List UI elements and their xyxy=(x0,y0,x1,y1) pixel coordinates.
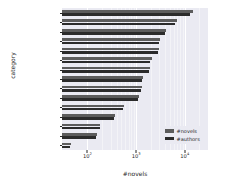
y-tick-mark xyxy=(60,51,63,52)
legend-swatch-authors xyxy=(165,137,174,140)
y-tick-mark xyxy=(60,88,63,89)
y-tick-mark xyxy=(60,79,63,80)
y-tick-mark xyxy=(60,117,63,118)
y-tick-mark xyxy=(60,98,63,99)
legend-label-novels: #novels xyxy=(177,128,197,134)
legend-label-authors: #authors xyxy=(177,136,200,142)
y-tick-mark xyxy=(60,70,63,71)
x-axis-label: #novels xyxy=(62,170,208,177)
x-tick-label: 102 xyxy=(83,152,92,159)
x-tick-label: 103 xyxy=(132,152,141,159)
bar-chart-figure: category #novels XuanhuanModernXianxiaSc… xyxy=(0,0,227,184)
x-tick-mark xyxy=(87,150,88,153)
y-tick-mark xyxy=(60,60,63,61)
y-tick-mark xyxy=(60,136,63,137)
y-tick-mark xyxy=(60,145,63,146)
y-tick-mark xyxy=(60,41,63,42)
y-tick-mark xyxy=(60,126,63,127)
y-tick-mark xyxy=(60,13,63,14)
legend-item-novels: #novels xyxy=(165,128,200,134)
y-tick-mark xyxy=(60,22,63,23)
legend: #novels #authors xyxy=(163,126,203,144)
x-tick-label: 104 xyxy=(180,152,189,159)
x-tick-mark xyxy=(184,150,185,153)
y-tick-mark xyxy=(60,107,63,108)
x-tick-mark xyxy=(136,150,137,153)
y-tick-mark xyxy=(60,32,63,33)
legend-item-authors: #authors xyxy=(165,136,200,142)
legend-swatch-novels xyxy=(165,129,174,132)
y-axis-label: category xyxy=(9,36,16,96)
